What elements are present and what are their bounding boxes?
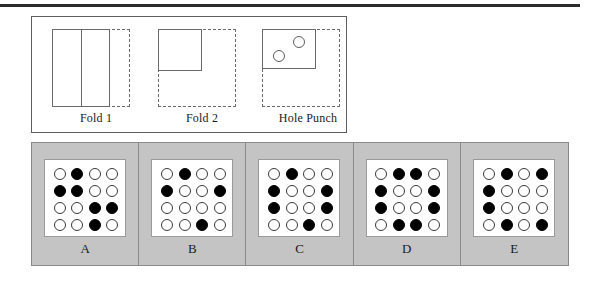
hole-open — [161, 219, 173, 231]
fold-2-caption: Fold 2 — [150, 111, 254, 126]
hole-filled — [536, 168, 548, 180]
punched-hole-upper-right — [293, 36, 305, 48]
hole-open — [286, 185, 298, 197]
option-a-label: A — [32, 241, 138, 257]
option-a-hole-grid — [51, 165, 121, 233]
hole-open — [196, 168, 208, 180]
hole-open — [214, 219, 226, 231]
hole-filled — [161, 185, 173, 197]
option-a-card — [44, 159, 126, 237]
option-d-card — [366, 159, 448, 237]
answer-option-e[interactable]: E — [461, 143, 568, 265]
fold-2-folded-paper — [158, 29, 202, 71]
hole-open — [536, 185, 548, 197]
fold-1-diagram — [44, 25, 144, 110]
hole-filled — [501, 168, 513, 180]
hole-open — [54, 219, 66, 231]
hole-open — [303, 168, 315, 180]
hole-open — [161, 168, 173, 180]
hole-filled — [268, 202, 280, 214]
hole-open — [196, 185, 208, 197]
hole-filled — [393, 168, 405, 180]
hole-open — [501, 202, 513, 214]
hole-open — [483, 219, 495, 231]
hole-filled — [286, 168, 298, 180]
punched-hole-lower-left — [273, 50, 285, 62]
hole-open — [321, 219, 333, 231]
fold-sequence-panel: Fold 1 Fold 2 Hole Punch — [31, 16, 347, 133]
hole-open — [518, 185, 530, 197]
hole-open — [410, 185, 422, 197]
hole-punch-folded-paper — [262, 29, 316, 69]
hole-open — [501, 185, 513, 197]
answer-option-a[interactable]: A — [32, 143, 139, 265]
hole-filled — [54, 185, 66, 197]
fold-1-caption: Fold 1 — [44, 111, 148, 126]
hole-open — [393, 185, 405, 197]
option-d-label: D — [354, 241, 460, 257]
hole-open — [303, 202, 315, 214]
hole-filled — [375, 185, 387, 197]
hole-open — [106, 185, 118, 197]
top-horizontal-rule — [0, 4, 580, 7]
hole-open — [428, 168, 440, 180]
hole-open — [106, 219, 118, 231]
fold-stage-1: Fold 1 — [44, 17, 148, 134]
hole-filled — [536, 219, 548, 231]
hole-open — [89, 168, 101, 180]
fold-2-diagram — [150, 25, 250, 110]
hole-open — [393, 202, 405, 214]
hole-open — [483, 168, 495, 180]
option-d-hole-grid — [373, 165, 443, 233]
hole-filled — [321, 185, 333, 197]
option-e-card — [473, 159, 555, 237]
answer-option-c[interactable]: C — [246, 143, 353, 265]
fold-stage-3: Hole Punch — [256, 17, 360, 134]
hole-open — [518, 219, 530, 231]
option-b-label: B — [139, 241, 245, 257]
hole-open — [321, 168, 333, 180]
hole-filled — [375, 202, 387, 214]
hole-filled — [179, 168, 191, 180]
hole-punch-diagram — [256, 25, 356, 110]
hole-open — [428, 219, 440, 231]
hole-filled — [303, 219, 315, 231]
hole-open — [71, 202, 83, 214]
option-b-hole-grid — [158, 165, 228, 233]
hole-open — [214, 168, 226, 180]
hole-filled — [89, 219, 101, 231]
hole-filled — [106, 202, 118, 214]
hole-punch-caption: Hole Punch — [256, 111, 360, 126]
hole-open — [303, 185, 315, 197]
option-c-label: C — [246, 241, 352, 257]
hole-open — [268, 168, 280, 180]
option-e-hole-grid — [480, 165, 550, 233]
hole-filled — [196, 219, 208, 231]
hole-open — [536, 202, 548, 214]
hole-open — [410, 202, 422, 214]
answer-option-d[interactable]: D — [354, 143, 461, 265]
hole-filled — [501, 219, 513, 231]
hole-filled — [268, 185, 280, 197]
hole-open — [214, 202, 226, 214]
hole-open — [375, 219, 387, 231]
answer-option-b[interactable]: B — [139, 143, 246, 265]
fold-stage-2: Fold 2 — [150, 17, 254, 134]
hole-open — [71, 219, 83, 231]
hole-open — [518, 168, 530, 180]
option-e-label: E — [461, 241, 568, 257]
hole-filled — [428, 185, 440, 197]
hole-filled — [483, 202, 495, 214]
hole-filled — [321, 202, 333, 214]
hole-open — [161, 202, 173, 214]
hole-open — [54, 168, 66, 180]
hole-filled — [428, 202, 440, 214]
hole-open — [268, 219, 280, 231]
hole-open — [106, 168, 118, 180]
hole-filled — [71, 185, 83, 197]
hole-open — [196, 202, 208, 214]
hole-open — [179, 219, 191, 231]
hole-filled — [214, 185, 226, 197]
hole-filled — [410, 219, 422, 231]
hole-open — [518, 202, 530, 214]
